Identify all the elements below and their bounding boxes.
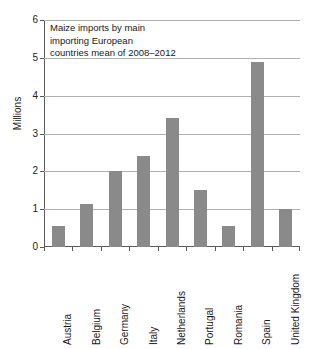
y-tick-label: 0 <box>20 242 38 252</box>
x-axis-label: United Kingdom <box>290 274 301 345</box>
y-tick-label: 1 <box>20 204 38 214</box>
y-tick-label: 4 <box>20 91 38 101</box>
chart-title-line: countries mean of 2008–2012 <box>50 47 222 60</box>
gridline <box>44 20 300 21</box>
x-axis-label: Austria <box>62 314 73 345</box>
y-tick-mark <box>40 58 44 59</box>
y-tick-mark <box>40 96 44 97</box>
y-tick-label: 3 <box>20 129 38 139</box>
chart-title-line: Maize imports by main <box>50 22 222 35</box>
y-tick-mark <box>40 171 44 172</box>
bar <box>251 62 264 247</box>
x-axis-label: Netherlands <box>176 291 187 345</box>
y-tick-label: 2 <box>20 166 38 176</box>
bar-chart: Millions 0123456 AustriaBelgiumGermanyIt… <box>0 0 311 349</box>
bar <box>279 209 292 247</box>
y-tick-mark <box>40 209 44 210</box>
bar <box>194 190 207 247</box>
y-tick-mark <box>40 134 44 135</box>
bar <box>52 226 65 247</box>
bar <box>166 118 179 247</box>
x-axis-label: Portugal <box>204 308 215 345</box>
x-axis-labels: AustriaBelgiumGermanyItalyNetherlandsPor… <box>44 251 300 349</box>
y-tick-mark <box>40 20 44 21</box>
x-axis-label: Spain <box>261 319 272 345</box>
bar <box>222 226 235 247</box>
chart-title: Maize imports by mainimporting Europeanc… <box>50 22 222 60</box>
x-axis-label: Germany <box>119 304 130 345</box>
x-axis-label: Romania <box>233 305 244 345</box>
x-axis-label: Belgium <box>91 309 102 345</box>
x-axis-label: Italy <box>148 327 159 345</box>
chart-title-line: importing European <box>50 35 222 48</box>
y-tick-label: 5 <box>20 53 38 63</box>
bar <box>80 204 93 248</box>
y-tick-label: 6 <box>20 15 38 25</box>
bar <box>109 171 122 247</box>
bar <box>137 156 150 247</box>
